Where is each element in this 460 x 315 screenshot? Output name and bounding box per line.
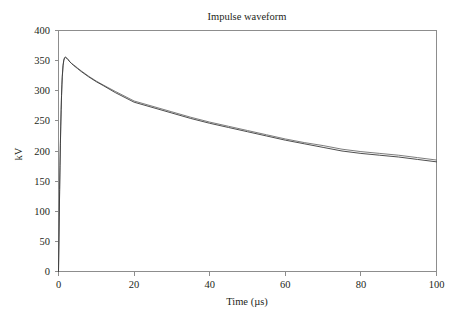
x-tick-label-80: 80 xyxy=(356,279,367,290)
chart-canvas: 0 50 100 150 200 250 300 350 400 0 20 40… xyxy=(0,0,460,315)
y-tick-label-300: 300 xyxy=(34,85,50,96)
y-tick-label-200: 200 xyxy=(34,146,50,157)
y-tick-label-100: 100 xyxy=(34,206,50,217)
waveform-trace-simulated xyxy=(59,58,437,272)
chart-title: Impulse waveform xyxy=(207,11,286,22)
x-tick-marks xyxy=(59,272,437,276)
x-axis-title: Time (µs) xyxy=(226,296,268,308)
plot-frame xyxy=(59,31,437,272)
y-tick-labels: 0 50 100 150 200 250 300 350 400 xyxy=(34,25,50,277)
y-tick-label-50: 50 xyxy=(40,236,51,247)
y-tick-label-400: 400 xyxy=(34,25,50,36)
x-tick-label-60: 60 xyxy=(280,279,291,290)
x-tick-labels: 0 20 40 60 80 100 xyxy=(56,279,445,290)
x-tick-label-100: 100 xyxy=(429,279,445,290)
y-tick-label-350: 350 xyxy=(34,55,50,66)
y-tick-label-0: 0 xyxy=(45,266,50,277)
y-tick-label-250: 250 xyxy=(34,115,50,126)
y-axis-title: kV xyxy=(13,147,24,160)
x-tick-label-0: 0 xyxy=(56,279,61,290)
y-tick-marks xyxy=(55,31,59,272)
impulse-waveform-figure: 0 50 100 150 200 250 300 350 400 0 20 40… xyxy=(0,0,460,315)
waveform-trace-measured xyxy=(59,57,437,271)
x-tick-label-20: 20 xyxy=(129,279,140,290)
x-tick-label-40: 40 xyxy=(204,279,215,290)
y-tick-label-150: 150 xyxy=(34,176,50,187)
